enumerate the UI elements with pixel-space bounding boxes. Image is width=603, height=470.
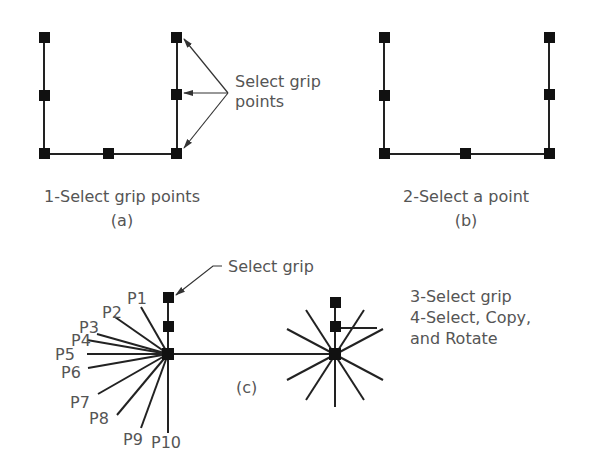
arrow-icon — [184, 39, 228, 93]
grip-square — [379, 32, 390, 43]
grip-square — [163, 321, 174, 332]
grip-square — [171, 32, 182, 43]
caption-b: 2-Select a point — [403, 187, 529, 206]
point-label: P10 — [151, 433, 181, 452]
arrow-icon — [184, 93, 228, 148]
callout-points: points — [235, 92, 284, 111]
ray-p9 — [141, 354, 168, 428]
grip-square-base — [162, 348, 174, 360]
tag-a: (a) — [111, 211, 133, 230]
point-label: P7 — [70, 393, 90, 412]
tag-b: (b) — [455, 211, 478, 230]
grip-square — [544, 148, 555, 159]
caption-a: 1-Select grip points — [44, 187, 200, 206]
point-label: P2 — [102, 303, 122, 322]
point-label: P6 — [61, 363, 81, 382]
point-label: P1 — [127, 289, 147, 308]
grip-square — [460, 148, 471, 159]
panel-c: Select grip P1 P2 P3 P4 P5 P6 P7 P8 P9 P… — [55, 257, 531, 452]
polyline-b — [384, 37, 549, 154]
grip-square — [171, 148, 182, 159]
callout-select-grip-c: Select grip — [228, 257, 314, 276]
grip-square — [544, 89, 555, 100]
grip-square — [379, 148, 390, 159]
grip-square — [39, 90, 50, 101]
step-4: 4-Select, Copy, — [410, 308, 531, 327]
grip-square — [39, 148, 50, 159]
grip-square — [103, 148, 114, 159]
tag-c: (c) — [236, 378, 257, 397]
point-label: P9 — [123, 430, 143, 449]
grip-square — [171, 89, 182, 100]
grip-square-base — [329, 348, 341, 360]
grip-square-selected — [163, 292, 174, 303]
point-label: P5 — [55, 345, 75, 364]
grip-square — [39, 32, 50, 43]
grip-square — [330, 321, 341, 332]
grip-diagram: Select grip points 1-Select grip points … — [0, 0, 603, 470]
step-3: 3-Select grip — [410, 287, 512, 306]
panel-b: 2-Select a point (b) — [379, 32, 555, 230]
arrow-icon — [176, 266, 222, 295]
step-4-cont: and Rotate — [410, 329, 498, 348]
grip-square — [379, 90, 390, 101]
grip-square — [330, 297, 341, 308]
grip-square — [544, 32, 555, 43]
callout-select-grip: Select grip — [235, 72, 321, 91]
polyline-a — [44, 37, 177, 154]
ray-p8 — [117, 354, 168, 415]
panel-a: Select grip points 1-Select grip points … — [39, 32, 321, 230]
point-label: P8 — [89, 409, 109, 428]
